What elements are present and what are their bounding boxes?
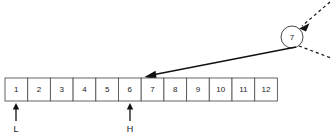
array-cell-label: 3 [60, 85, 65, 94]
node-to-array-arrow-group [145, 47, 297, 80]
array-cell-label: 6 [128, 85, 133, 94]
value-node-group[interactable]: 7 [281, 26, 303, 48]
incoming-dashed-edge-group [299, 2, 330, 31]
low-pointer-head [13, 103, 19, 110]
node-to-array-arrow-line [152, 47, 296, 75]
low-pointer-label: L [13, 124, 18, 134]
array-cell-label: 5 [105, 85, 110, 94]
array-insertion-diagram: 7 123456789101112 LH [0, 0, 331, 140]
pointers: LH [13, 103, 133, 134]
array-cell-label: 2 [37, 85, 42, 94]
diagram-canvas: 7 123456789101112 LH [0, 0, 331, 140]
array-cell-label: 10 [216, 85, 225, 94]
value-node-label: 7 [290, 33, 295, 42]
high-pointer-head [127, 103, 133, 110]
incoming-dashed-edge [302, 2, 330, 26]
array-cell-label: 9 [196, 85, 201, 94]
array-cell-label: 1 [14, 85, 19, 94]
high-pointer-label: H [127, 124, 134, 134]
high-pointer: H [127, 103, 134, 134]
array-cell-label: 7 [150, 85, 155, 94]
low-pointer: L [13, 103, 19, 134]
outgoing-dashed-edge [299, 46, 331, 58]
array-cell-label: 4 [82, 85, 87, 94]
array-cell-label: 12 [262, 85, 271, 94]
array-cell-label: 8 [173, 85, 178, 94]
array-cells: 123456789101112 [5, 78, 277, 101]
outgoing-dashed-edge-group [299, 46, 331, 58]
array-cell-label: 11 [239, 85, 248, 94]
